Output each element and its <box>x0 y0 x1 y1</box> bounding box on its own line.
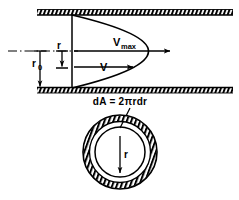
circle-radius-label: r <box>124 149 128 160</box>
cross-section-diagram: r <box>83 115 157 189</box>
pipe-top-wall <box>37 10 233 16</box>
r-zero-label-main: r <box>32 58 36 69</box>
v-label: V <box>100 61 108 73</box>
area-element-caption: dA = 2πrdr <box>93 96 147 107</box>
r-zero-label-subscript: 0 <box>38 63 42 72</box>
radial-position-dimension <box>56 51 68 68</box>
vmax-label-main: V <box>113 36 121 48</box>
figure-canvas: V max V r 0 r dA = 2πrdr r <box>0 0 239 200</box>
r-local-label: r <box>57 40 61 51</box>
vmax-label: V max <box>113 36 137 51</box>
vmax-label-subscript: max <box>121 42 137 51</box>
pipe-flow-figure: V max V r 0 r dA = 2πrdr r <box>0 0 239 200</box>
pipe-bottom-wall <box>37 88 233 94</box>
